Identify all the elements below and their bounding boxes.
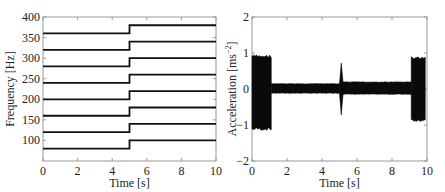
frequency-plot: 0246810100150200250300350400Time [s]Freq… [3, 10, 222, 190]
acceleration-signal [343, 82, 411, 95]
x-axis-label: Time [s] [319, 176, 360, 190]
frequency-line [43, 42, 216, 50]
y-tick-label: 350 [22, 31, 40, 45]
y-axis-label: Acceleration [ms−2] [224, 42, 239, 137]
frequency-line [43, 91, 216, 99]
frequency-line [43, 58, 216, 66]
acceleration-signal [271, 84, 339, 94]
acceleration-signal [340, 63, 344, 115]
x-tick-label: 2 [75, 164, 81, 178]
y-tick-label: 400 [22, 10, 40, 24]
y-tick-label: −2 [236, 154, 249, 168]
x-tick-label: 10 [210, 164, 222, 178]
acceleration-signal [252, 55, 271, 130]
y-axis-label: Frequency [Hz] [3, 51, 17, 127]
x-tick-label: 0 [249, 164, 255, 178]
frequency-line [43, 75, 216, 83]
figure: 0246810100150200250300350400Time [s]Freq… [0, 0, 445, 192]
y-tick-label: 0 [243, 82, 249, 96]
y-tick-label: 200 [22, 92, 40, 106]
y-tick-label: 150 [22, 113, 40, 127]
frequency-line [43, 108, 216, 116]
y-tick-label: 250 [22, 72, 40, 86]
y-tick-label: 1 [243, 46, 249, 60]
x-tick-label: 8 [178, 164, 184, 178]
x-tick-label: 8 [389, 164, 395, 178]
acceleration-plot: 0246810−2−1012Time [s]Acceleration [ms−2… [224, 10, 433, 190]
y-tick-label: 2 [243, 10, 249, 24]
x-tick-label: 2 [284, 164, 290, 178]
x-tick-label: 10 [421, 164, 433, 178]
x-tick-label: 0 [40, 164, 46, 178]
frequency-line [43, 140, 216, 148]
acceleration-signal [411, 57, 425, 122]
y-tick-label: 100 [22, 133, 40, 147]
frequency-line [43, 124, 216, 132]
y-tick-label: 300 [22, 51, 40, 65]
x-axis-label: Time [s] [109, 176, 150, 190]
frequency-line [43, 25, 216, 33]
axes-box [43, 17, 216, 161]
